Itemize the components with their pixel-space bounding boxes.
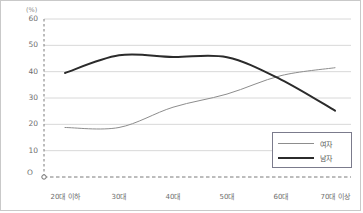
x-tick-label: 60대 [274,191,289,201]
legend-line-icon-male [278,157,314,159]
series-line-남자 [65,54,335,110]
legend[interactable]: 여자 남자 [272,132,352,168]
gridlines [44,19,351,151]
chart-frame: (%) 605040302010 O 20대 이하30대40대50대60대70대… [0,0,361,211]
legend-item-male[interactable]: 남자 [278,151,332,164]
legend-line-icon-female [278,143,314,144]
origin-label: O [27,168,33,177]
x-tick-label: 50대 [220,191,235,201]
x-tick-label: 30대 [112,191,127,201]
plot-area [1,1,362,212]
x-tick-label: 40대 [166,191,181,201]
legend-label-female: 여자 [320,139,332,149]
y-axis-unit-label: (%) [26,6,37,14]
x-tick-label: 70대 이상 [320,191,349,201]
x-tick-label: 20대 이하 [50,191,79,201]
line-chart-svg [1,1,362,212]
legend-item-female[interactable]: 여자 [278,137,332,150]
y-tick-label: 50 [20,40,38,49]
legend-label-male: 남자 [320,153,332,163]
y-tick-label: 40 [20,67,38,76]
series-lines [65,54,335,129]
y-tick-label: 30 [20,93,38,102]
y-tick-label: 10 [20,146,38,155]
y-tick-label: 20 [20,119,38,128]
origin-marker [42,175,46,179]
y-tick-label: 60 [20,14,38,23]
